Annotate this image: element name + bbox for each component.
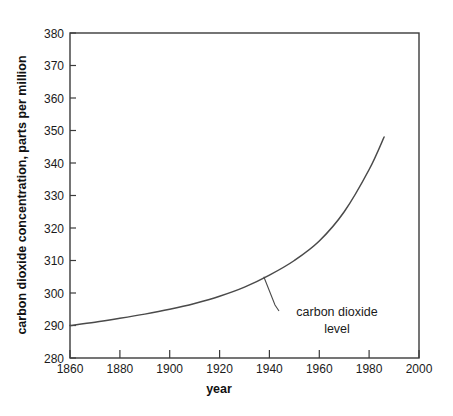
x-tick-label: 1860 (57, 362, 84, 376)
y-tick-label: 320 (44, 222, 64, 236)
annotation-line-1: carbon dioxide (296, 305, 377, 319)
y-axis-title: carbon dioxide concentration, parts per … (15, 55, 29, 334)
annotation-line-2: level (324, 322, 350, 336)
y-tick-label: 360 (44, 92, 64, 106)
x-tick-label: 1920 (206, 362, 233, 376)
x-axis-title: year (206, 382, 232, 396)
y-tick-label: 300 (44, 287, 64, 301)
y-tick-label: 350 (44, 124, 64, 138)
y-tick-label: 310 (44, 254, 64, 268)
y-tick-label: 340 (44, 157, 64, 171)
co2-line-chart: 380 370 360 350 340 330 320 310 300 290 … (0, 0, 453, 416)
chart-page: 380 370 360 350 340 330 320 310 300 290 … (0, 0, 453, 416)
y-tick-label: 370 (44, 59, 64, 73)
x-tick-label: 1940 (256, 362, 283, 376)
chart-background (0, 0, 453, 416)
y-tick-label: 380 (44, 27, 64, 41)
x-tick-label: 1880 (107, 362, 134, 376)
x-tick-label: 1960 (306, 362, 333, 376)
x-tick-label: 1900 (156, 362, 183, 376)
y-tick-label: 330 (44, 189, 64, 203)
x-tick-label: 2000 (406, 362, 433, 376)
x-tick-label: 1980 (356, 362, 383, 376)
y-tick-label: 290 (44, 319, 64, 333)
